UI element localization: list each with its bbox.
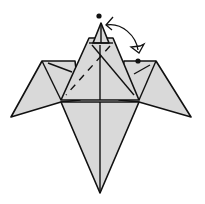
top-dot-marker (96, 13, 101, 18)
right-dot-marker (135, 58, 140, 63)
arrowhead-top-icon (106, 17, 113, 30)
origami-diagram (0, 0, 205, 204)
